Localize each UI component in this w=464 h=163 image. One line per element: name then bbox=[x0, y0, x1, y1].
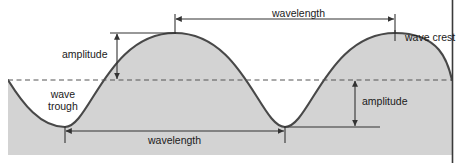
wavelength-top-label: wavelength bbox=[272, 7, 325, 19]
wave-diagram-figure: amplitude amplitude wavelength wavelengt… bbox=[0, 0, 464, 163]
wave-trough-label: wave trough bbox=[48, 88, 78, 112]
wave-trough-label-line1: wave bbox=[48, 88, 78, 100]
wave-trough-label-line2: trough bbox=[48, 100, 78, 112]
amplitude-left-label: amplitude bbox=[62, 48, 108, 60]
wavelength-bottom-label: wavelength bbox=[148, 134, 201, 146]
wave-diagram-canvas bbox=[0, 0, 464, 163]
wave-crest-label: wave crest bbox=[405, 31, 455, 43]
amplitude-right-label: amplitude bbox=[362, 95, 408, 107]
